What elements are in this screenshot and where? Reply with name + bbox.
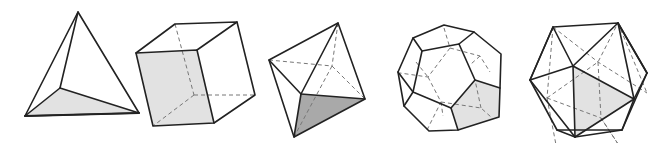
figure-canvas [0, 0, 664, 143]
cube-shaded-face [136, 50, 214, 126]
cube [136, 22, 255, 126]
tetrahedron [25, 12, 139, 116]
dodecahedron [398, 25, 501, 131]
platonic-solids-figure: tetrahedron cube octahedron dodecahedron… [0, 0, 664, 143]
icosahedron-shaded-face [573, 66, 634, 137]
octahedron [269, 23, 365, 137]
icosahedron [530, 23, 647, 143]
